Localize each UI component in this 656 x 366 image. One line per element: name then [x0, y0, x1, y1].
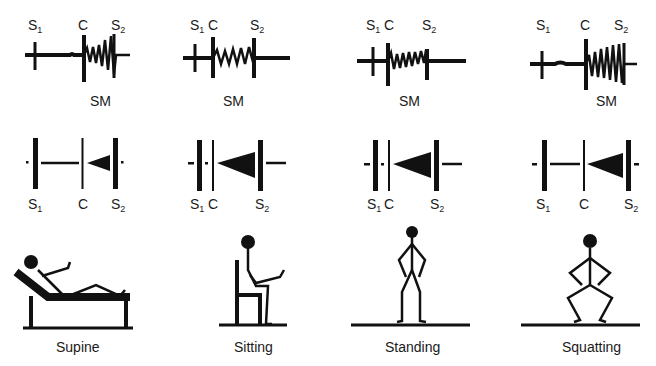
- squatting-figure-icon: [500, 0, 656, 366]
- position-label-standing: Standing: [385, 339, 440, 355]
- panel-sitting: S1 C S2 SM S1 C S2: [170, 0, 330, 366]
- position-label-supine: Supine: [56, 339, 100, 355]
- standing-figure-icon: [340, 0, 500, 366]
- panel-squatting: S1 C S2 SM S1 C S2: [500, 0, 656, 366]
- panel-standing: S1 C S2 SM S1 C S2: [340, 0, 500, 366]
- position-label-squatting: Squatting: [562, 339, 621, 355]
- supine-figure-icon: [0, 0, 160, 366]
- panel-supine: S1 C S2 SM S1 C S2: [0, 0, 160, 366]
- sitting-figure-icon: [170, 0, 330, 366]
- position-label-sitting: Sitting: [234, 339, 273, 355]
